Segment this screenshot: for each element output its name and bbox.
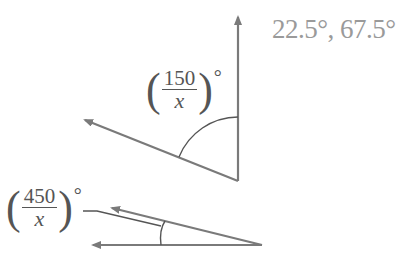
top-angle-label: ( 150 x ) ° [146,68,222,112]
upper-ray [112,208,262,245]
open-paren: ( [6,185,21,231]
denominator: x [35,208,45,230]
slanted-ray [85,120,238,181]
numerator: 450 [22,186,58,208]
bottom-angle-figure [83,208,262,245]
fraction: 450 x [22,186,58,230]
close-paren: ) [58,185,73,231]
fraction: 150 x [162,68,198,112]
degree-symbol: ° [214,66,222,89]
angle-arc [161,221,166,245]
open-paren: ( [146,67,161,113]
bottom-angle-label: ( 450 x ) ° [6,186,82,230]
label-leader-line [83,211,161,226]
denominator: x [175,90,185,112]
degree-symbol: ° [74,184,82,207]
close-paren: ) [198,67,213,113]
angle-arc [179,117,238,157]
numerator: 150 [162,68,198,90]
answer-text: 22.5°, 67.5° [272,14,396,45]
